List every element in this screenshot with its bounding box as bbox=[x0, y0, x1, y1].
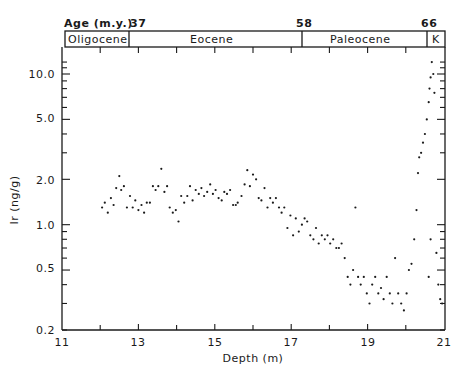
data-point bbox=[266, 206, 268, 208]
data-point bbox=[335, 247, 337, 249]
iridium-depth-scatter-chart: Age (m.y.) 37 58 66 Oligocene Eocene Pal… bbox=[0, 0, 462, 375]
axis-ticks bbox=[62, 47, 445, 330]
data-point bbox=[278, 206, 280, 208]
data-point bbox=[349, 284, 351, 286]
data-point bbox=[186, 195, 188, 197]
data-point bbox=[366, 292, 368, 294]
data-point bbox=[172, 212, 174, 214]
data-point bbox=[275, 197, 277, 199]
data-point bbox=[422, 142, 424, 144]
data-point bbox=[357, 276, 359, 278]
data-point bbox=[321, 234, 323, 236]
y-tick-label: 2.0 bbox=[36, 174, 55, 187]
data-point bbox=[200, 187, 202, 189]
y-tick-label: 0.5 bbox=[36, 262, 55, 275]
data-point bbox=[428, 88, 430, 90]
data-point bbox=[157, 185, 159, 187]
data-point bbox=[249, 185, 251, 187]
epoch-oligocene: Oligocene bbox=[68, 33, 128, 46]
data-point bbox=[240, 195, 242, 197]
data-point bbox=[391, 302, 393, 304]
y-tick-label: 5.0 bbox=[36, 112, 55, 125]
data-points bbox=[101, 61, 443, 312]
data-point bbox=[143, 212, 145, 214]
data-point bbox=[403, 309, 405, 311]
data-point bbox=[192, 199, 194, 201]
data-point bbox=[198, 193, 200, 195]
data-point bbox=[118, 175, 120, 177]
data-point bbox=[332, 238, 334, 240]
y-axis-title: Ir (ng/g) bbox=[8, 176, 21, 225]
epoch-eocene: Eocene bbox=[190, 33, 233, 46]
data-point bbox=[344, 257, 346, 259]
data-point bbox=[371, 284, 373, 286]
data-point bbox=[269, 197, 271, 199]
data-point bbox=[324, 238, 326, 240]
data-point bbox=[134, 199, 136, 201]
epoch-k: K bbox=[432, 33, 440, 46]
y-tick-label: 1.0 bbox=[36, 219, 55, 232]
data-point bbox=[218, 197, 220, 199]
data-point bbox=[329, 242, 331, 244]
data-point bbox=[126, 206, 128, 208]
data-point bbox=[406, 292, 408, 294]
data-point bbox=[183, 202, 185, 204]
x-tick-label: 21 bbox=[437, 336, 452, 349]
data-point bbox=[432, 73, 434, 75]
age-tick-37: 37 bbox=[130, 17, 146, 30]
data-point bbox=[309, 234, 311, 236]
data-point bbox=[304, 217, 306, 219]
data-point bbox=[258, 197, 260, 199]
data-point bbox=[203, 195, 205, 197]
data-point bbox=[428, 276, 430, 278]
data-point bbox=[140, 204, 142, 206]
data-point bbox=[363, 276, 365, 278]
data-point bbox=[152, 185, 154, 187]
data-point bbox=[326, 234, 328, 236]
data-point bbox=[426, 118, 428, 120]
data-point bbox=[435, 252, 437, 254]
data-point bbox=[420, 152, 422, 154]
data-point bbox=[169, 206, 171, 208]
x-axis-title: Depth (m) bbox=[223, 352, 284, 365]
data-point bbox=[272, 202, 274, 204]
data-point bbox=[439, 298, 441, 300]
data-point bbox=[301, 224, 303, 226]
data-point bbox=[318, 242, 320, 244]
x-tick-label: 19 bbox=[361, 336, 376, 349]
data-point bbox=[338, 247, 340, 249]
x-tick-label: 17 bbox=[284, 336, 299, 349]
data-point bbox=[166, 185, 168, 187]
data-point bbox=[283, 206, 285, 208]
data-point bbox=[120, 189, 122, 191]
age-tick-66: 66 bbox=[421, 17, 437, 30]
data-point bbox=[418, 156, 420, 158]
data-point bbox=[389, 292, 391, 294]
data-point bbox=[383, 298, 385, 300]
data-point bbox=[377, 292, 379, 294]
data-point bbox=[206, 191, 208, 193]
data-point bbox=[315, 227, 317, 229]
data-point bbox=[244, 183, 246, 185]
data-point bbox=[101, 206, 103, 208]
data-point bbox=[175, 209, 177, 211]
data-point bbox=[433, 92, 435, 94]
data-point bbox=[380, 287, 382, 289]
x-tick-label: 11 bbox=[55, 336, 70, 349]
data-point bbox=[306, 220, 308, 222]
data-point bbox=[281, 212, 283, 214]
data-point bbox=[347, 276, 349, 278]
data-point bbox=[252, 174, 254, 176]
data-point bbox=[209, 183, 211, 185]
data-point bbox=[360, 284, 362, 286]
data-point bbox=[160, 168, 162, 170]
data-point bbox=[341, 242, 343, 244]
data-point bbox=[212, 193, 214, 195]
data-point bbox=[408, 269, 410, 271]
data-point bbox=[431, 61, 433, 63]
data-point bbox=[413, 238, 415, 240]
data-point bbox=[110, 197, 112, 199]
data-point bbox=[195, 189, 197, 191]
data-point bbox=[232, 204, 234, 206]
data-point bbox=[215, 189, 217, 191]
